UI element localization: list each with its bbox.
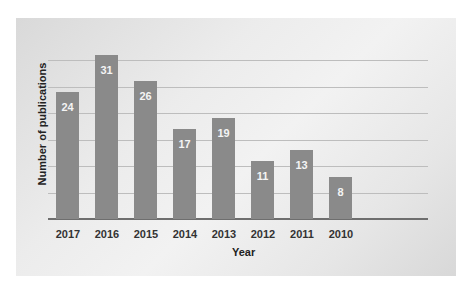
data-label: 17 (173, 138, 196, 150)
data-label: 19 (212, 127, 235, 139)
data-label: 13 (290, 159, 313, 171)
x-tick-label: 2011 (282, 228, 322, 240)
data-label: 24 (56, 101, 79, 113)
x-tick-label: 2012 (243, 228, 283, 240)
data-label: 8 (329, 186, 352, 198)
x-axis-label: Year (232, 246, 255, 258)
y-axis-label: Number of publications (36, 44, 48, 204)
data-label: 26 (134, 90, 157, 102)
data-label: 11 (251, 170, 274, 182)
x-tick-label: 2016 (87, 228, 127, 240)
x-tick-label: 2015 (126, 228, 166, 240)
x-tick-label: 2013 (204, 228, 244, 240)
x-tick-label: 2014 (165, 228, 205, 240)
data-label: 31 (95, 64, 118, 76)
bar-2016 (95, 55, 118, 219)
x-tick-label: 2017 (48, 228, 88, 240)
bar-2010 (329, 177, 352, 219)
x-tick-label: 2010 (321, 228, 361, 240)
